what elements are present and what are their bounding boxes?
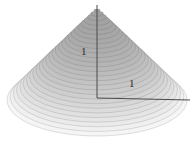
radius-axis-label: 1 xyxy=(129,78,135,89)
height-axis-label: 1 xyxy=(81,46,87,57)
cone-surface-plot xyxy=(0,0,194,154)
figure: 1 1 xyxy=(0,0,194,154)
